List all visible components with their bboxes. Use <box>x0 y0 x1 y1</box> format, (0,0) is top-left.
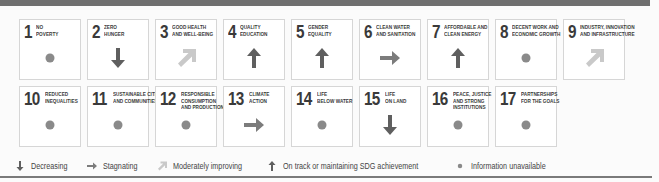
sdg-number: 12 <box>160 89 175 109</box>
sdg-number: 17 <box>500 89 515 109</box>
moderately-improving-icon <box>174 46 198 70</box>
info-unavailable-icon <box>514 46 538 70</box>
legend-item-on-track: On track or maintaining SDG achievement <box>266 160 442 172</box>
legend-item-moderately-improving: Moderately improving <box>156 160 254 172</box>
sdg-number: 13 <box>228 89 243 109</box>
legend-label: Information unavailable <box>471 161 546 171</box>
sdg-number: 6 <box>364 22 372 42</box>
legend-item-info-unavailable: Information unavailable <box>454 160 559 172</box>
sdg-label: QUALITY EDUCATION <box>240 24 295 37</box>
sdg-number: 3 <box>160 22 168 42</box>
sdg-tile-8: 8DECENT WORK AND ECONOMIC GROWTH <box>495 19 557 80</box>
top-band <box>0 0 650 6</box>
decreasing-icon <box>14 160 31 172</box>
sdg-tile-1: 1NO POVERTY <box>19 19 81 80</box>
sdg-number: 1 <box>24 22 32 42</box>
sdg-label: INDUSTRY, INNOVATION AND INFRASTRUCTURE <box>580 24 635 37</box>
sdg-tile-2: 2ZERO HUNGER <box>87 19 149 80</box>
sdg-tile-15: 15LIFE ON LAND <box>359 86 421 147</box>
decreasing-icon <box>106 46 130 70</box>
sdg-number: 15 <box>364 89 379 109</box>
sdg-tile-3: 3GOOD HEALTH AND WELL-BEING <box>155 19 217 80</box>
legend-label: Stagnating <box>103 161 138 171</box>
legend-item-decreasing: Decreasing <box>14 160 74 172</box>
stagnating-icon <box>242 113 266 137</box>
sdg-grid: 1NO POVERTY2ZERO HUNGER3GOOD HEALTH AND … <box>19 19 644 153</box>
sdg-tile-17: 17PARTNERSHIPS FOR THE GOALS <box>495 86 557 147</box>
stagnating-icon <box>86 160 103 172</box>
info-unavailable-icon <box>38 113 62 137</box>
sdg-row-1: 1NO POVERTY2ZERO HUNGER3GOOD HEALTH AND … <box>19 19 644 80</box>
sdg-tile-10: 10REDUCED INEQUALITIES <box>19 86 81 147</box>
sdg-tile-16: 16PEACE, JUSTICE AND STRONG INSTITUTIONS <box>427 86 489 147</box>
sdg-label: PARTNERSHIPS FOR THE GOALS <box>521 91 576 104</box>
sdg-label: ZERO HUNGER <box>104 24 159 37</box>
info-unavailable-icon <box>454 160 471 172</box>
info-unavailable-icon <box>106 113 130 137</box>
sdg-label: GENDER EQUALITY <box>308 24 363 37</box>
sdg-tile-11: 11SUSTAINABLE CITIES AND COMMUNITIES <box>87 86 149 147</box>
sdg-tile-7: 7AFFORDABLE AND CLEAN ENERGY <box>427 19 489 80</box>
legend-label: On track or maintaining SDG achievement <box>283 161 418 171</box>
sdg-tile-5: 5GENDER EQUALITY <box>291 19 353 80</box>
sdg-tile-13: 13CLIMATE ACTION <box>223 86 285 147</box>
info-unavailable-icon <box>514 113 538 137</box>
sdg-tile-6: 6CLEAN WATER AND SANITATION <box>359 19 421 80</box>
sdg-number: 16 <box>432 89 447 109</box>
sdg-label: GOOD HEALTH AND WELL-BEING <box>172 24 227 37</box>
legend: DecreasingStagnatingModerately improving… <box>14 158 571 174</box>
sdg-number: 4 <box>228 22 236 42</box>
sdg-number: 8 <box>500 22 508 42</box>
legend-label: Moderately improving <box>173 161 242 171</box>
sdg-tile-4: 4QUALITY EDUCATION <box>223 19 285 80</box>
sdg-row-2: 10REDUCED INEQUALITIES11SUSTAINABLE CITI… <box>19 86 644 147</box>
sdg-number: 5 <box>296 22 304 42</box>
decreasing-icon <box>378 113 402 137</box>
sdg-number: 2 <box>92 22 100 42</box>
legend-label: Decreasing <box>31 161 68 171</box>
sdg-number: 9 <box>568 22 576 42</box>
info-unavailable-icon <box>310 113 334 137</box>
info-unavailable-icon <box>38 46 62 70</box>
stagnating-icon <box>378 46 402 70</box>
on-track-icon <box>310 46 334 70</box>
moderately-improving-icon <box>156 160 173 172</box>
sdg-number: 14 <box>296 89 311 109</box>
sdg-label: CLEAN WATER AND SANITATION <box>376 24 431 37</box>
on-track-icon <box>446 46 470 70</box>
bottom-divider <box>0 176 652 178</box>
legend-item-stagnating: Stagnating <box>86 160 144 172</box>
sdg-tile-12: 12RESPONSIBLE CONSUMPTION AND PRODUCTION <box>155 86 217 147</box>
info-unavailable-icon <box>174 113 198 137</box>
info-unavailable-icon <box>446 113 470 137</box>
on-track-icon <box>266 160 283 172</box>
sdg-tile-9: 9INDUSTRY, INNOVATION AND INFRASTRUCTURE <box>563 19 625 80</box>
sdg-number: 11 <box>92 89 106 109</box>
sdg-label: NO POVERTY <box>36 24 91 37</box>
moderately-improving-icon <box>582 46 606 70</box>
on-track-icon <box>242 46 266 70</box>
sdg-label: DECENT WORK AND ECONOMIC GROWTH <box>512 24 567 37</box>
sdg-tile-14: 14LIFE BELOW WATER <box>291 86 353 147</box>
sdg-number: 7 <box>432 22 440 42</box>
sdg-number: 10 <box>24 89 39 109</box>
sdg-label: AFFORDABLE AND CLEAN ENERGY <box>444 24 499 37</box>
